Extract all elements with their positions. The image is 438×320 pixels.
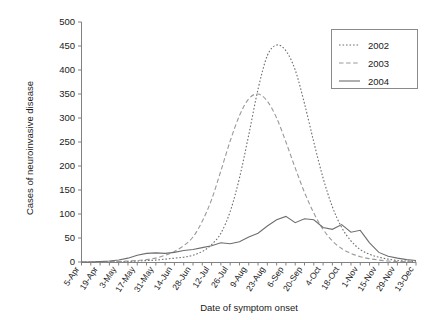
y-axis-tick-label: 100 (59, 208, 75, 219)
y-axis-tick-label: 350 (59, 88, 75, 99)
x-axis-tick-label: 18-Oct (319, 264, 342, 291)
y-axis-tick-labels: 050100150200250300350400450500 (59, 16, 75, 267)
x-axis-title: Date of symptom onset (200, 302, 298, 313)
x-axis-tick-label: 19-Apr (77, 265, 99, 292)
x-axis-tick-label: 31-May (132, 264, 156, 294)
y-axis-tick-label: 500 (59, 16, 75, 27)
x-axis: 5-Apr19-Apr3-May17-May31-May14-Jun28-Jun… (61, 262, 416, 294)
series-line-2004 (82, 216, 417, 262)
x-axis-tick-label: 28-Jun (170, 264, 193, 291)
chart-legend: 200220032004 (332, 30, 418, 89)
x-axis-tick-label: 26-Jul (209, 265, 230, 290)
y-axis: 050100150200250300350400450500 (59, 16, 81, 267)
x-axis-tick-label: 23-Aug (244, 264, 267, 293)
x-axis-tick-label: 12-Jul (190, 265, 211, 290)
y-axis-title: Cases of neuroinvasive disease (24, 81, 35, 215)
y-axis-tick-label: 150 (59, 184, 75, 195)
neuroinvasive-disease-line-chart: 050100150200250300350400450500 5-Apr19-A… (0, 0, 438, 320)
y-axis-tick-label: 200 (59, 160, 75, 171)
x-axis-tick-labels: 5-Apr19-Apr3-May17-May31-May14-Jun28-Jun… (61, 264, 416, 294)
y-axis-tick-label: 450 (59, 40, 75, 51)
chart-container: 050100150200250300350400450500 5-Apr19-A… (0, 0, 438, 320)
y-axis-tick-label: 400 (59, 64, 75, 75)
x-axis-tick-label: 20-Sep (281, 264, 304, 293)
x-axis-tick-label: 13-Dec (392, 264, 416, 293)
y-axis-ticks (78, 22, 82, 262)
legend-label-2003: 2003 (368, 58, 389, 69)
legend-label-2002: 2002 (368, 40, 389, 51)
y-axis-tick-label: 50 (64, 232, 75, 243)
y-axis-tick-label: 250 (59, 136, 75, 147)
y-axis-tick-label: 300 (59, 112, 75, 123)
legend-label-2004: 2004 (368, 76, 389, 87)
